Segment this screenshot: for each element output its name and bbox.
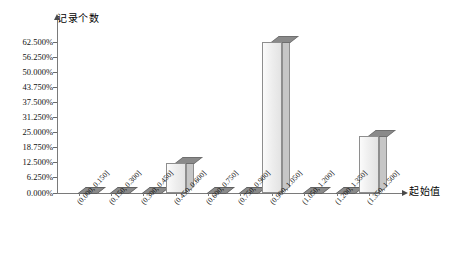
y-axis-tick-mark — [53, 87, 57, 88]
bar-front-face — [359, 136, 379, 193]
y-axis-arrow-icon — [54, 14, 60, 20]
y-axis-tick-label: 56.250% — [23, 53, 53, 62]
y-axis-tick-label: 0.000% — [27, 189, 53, 198]
y-axis-tick-mark — [53, 177, 57, 178]
y-axis-tick-mark — [53, 132, 57, 133]
y-axis-tick: 56.250% — [0, 53, 53, 62]
y-axis-tick: 62.500% — [0, 38, 53, 47]
y-axis-tick-mark — [53, 57, 57, 58]
y-axis-tick: 31.250% — [0, 113, 53, 122]
x-axis-arrow-icon — [402, 190, 408, 196]
y-axis-tick-mark — [53, 42, 57, 43]
y-axis-tick-mark — [53, 102, 57, 103]
y-axis-line — [57, 20, 58, 193]
y-axis-tick-mark — [53, 162, 57, 163]
y-axis-tick-label: 18.750% — [23, 143, 53, 152]
y-axis-tick: 25.000% — [0, 128, 53, 137]
y-axis-tick-label: 50.000% — [23, 68, 53, 77]
y-axis-title: 记录个数 — [57, 10, 99, 25]
y-axis-tick-label: 31.250% — [23, 113, 53, 122]
y-axis-tick-label: 6.250% — [27, 173, 53, 182]
y-axis-tick: 18.750% — [0, 143, 53, 152]
y-axis-tick-label: 12.500% — [23, 158, 53, 167]
y-axis-tick: 37.500% — [0, 98, 53, 107]
y-axis-tick: 43.750% — [0, 83, 53, 92]
y-axis-tick-label: 37.500% — [23, 98, 53, 107]
y-axis-tick-label: 25.000% — [23, 128, 53, 137]
y-axis-tick: 0.000% — [0, 189, 53, 198]
y-axis-tick: 50.000% — [0, 68, 53, 77]
x-axis-title: 起始值 — [409, 183, 441, 198]
y-axis-tick: 12.500% — [0, 158, 53, 167]
y-axis-tick-label: 62.500% — [23, 38, 53, 47]
y-axis-tick-mark — [53, 147, 57, 148]
y-axis-tick-mark — [53, 193, 57, 194]
y-axis-tick: 6.250% — [0, 173, 53, 182]
y-axis-tick-label: 43.750% — [23, 83, 53, 92]
y-axis-tick-mark — [53, 117, 57, 118]
bar-chart: 记录个数 起始值 0.000%6.250%12.500%18.750%25.00… — [0, 0, 453, 265]
bar-side-face — [282, 36, 290, 193]
y-axis-tick-mark — [53, 72, 57, 73]
